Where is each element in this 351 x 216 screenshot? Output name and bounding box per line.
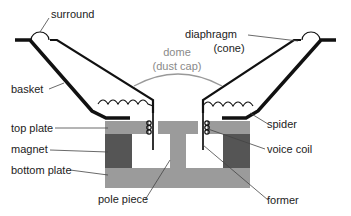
pole-piece-stem [170, 134, 186, 168]
magnet-assembly [105, 121, 250, 188]
label-voice-coil: voice coil [267, 143, 312, 155]
speaker-diagram: surround diaphragm (cone) dome (dust cap… [0, 0, 351, 216]
label-magnet: magnet [11, 143, 48, 155]
label-surround: surround [51, 8, 94, 20]
label-spider: spider [267, 118, 297, 130]
top-plate-left [105, 121, 149, 134]
pole-piece-top [158, 121, 198, 134]
dome-dust-cap [134, 74, 222, 86]
bottom-plate [105, 168, 250, 188]
label-dome: dome [163, 46, 191, 58]
label-top-plate: top plate [11, 122, 53, 134]
label-basket: basket [11, 83, 43, 95]
top-plate-right [207, 121, 250, 134]
magnet-left [105, 134, 132, 168]
label-diaphragm: diaphragm [185, 28, 237, 40]
label-pole-piece: pole piece [98, 193, 148, 205]
label-former: former [267, 194, 299, 206]
label-bottom-plate: bottom plate [11, 164, 72, 176]
spider [98, 100, 253, 106]
label-cone: (cone) [213, 42, 244, 54]
label-dust-cap: (dust cap) [153, 60, 202, 72]
